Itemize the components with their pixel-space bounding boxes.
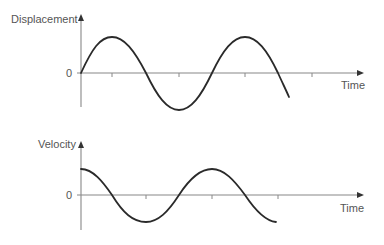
- velocity-zero-label: 0: [66, 189, 72, 201]
- x-arrow-icon: [357, 70, 364, 76]
- velocity-time-label: Time: [340, 202, 364, 214]
- y-arrow-icon: [78, 141, 84, 148]
- velocity-ticks: [146, 195, 278, 199]
- x-arrow-icon: [357, 192, 364, 198]
- displacement-time-label: Time: [341, 79, 365, 91]
- displacement-graph: Displacement 0 Time: [11, 13, 365, 110]
- displacement-axis-label: Displacement: [11, 13, 78, 25]
- velocity-graph: Velocity 0 Time: [38, 138, 364, 230]
- motion-graphs: Displacement 0 Time Velocity 0 Time: [0, 0, 384, 245]
- displacement-zero-label: 0: [66, 67, 72, 79]
- y-arrow-icon: [78, 14, 84, 21]
- velocity-axis-label: Velocity: [38, 138, 76, 150]
